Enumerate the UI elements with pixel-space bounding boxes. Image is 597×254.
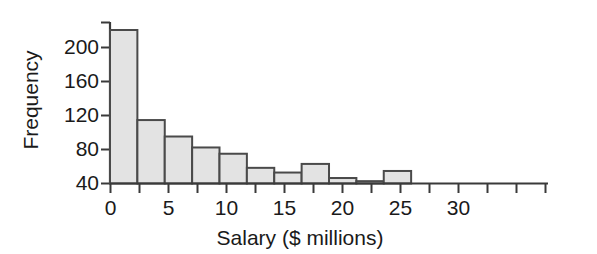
histogram-figure: Frequency 40 80 120 160 200: [0, 0, 597, 254]
x-tick-label-20: 20: [331, 196, 354, 219]
bar-8-10: [220, 154, 247, 184]
x-axis-title: Salary ($ millions): [217, 226, 384, 249]
y-tick-label-160: 160: [64, 69, 99, 92]
x-tick-marks: [111, 184, 546, 194]
bar-12-14: [274, 173, 301, 184]
x-tick-label-25: 25: [389, 196, 412, 219]
y-axis-title: Frequency: [19, 50, 42, 150]
bar-4-6: [165, 137, 192, 184]
bar-2-4: [137, 120, 164, 183]
histogram-bars: [110, 30, 411, 184]
y-tick-marks: [101, 23, 110, 184]
x-tick-label-15: 15: [273, 196, 296, 219]
x-tick-label-0: 0: [105, 196, 117, 219]
y-tick-label-120: 120: [64, 103, 99, 126]
bar-10-12: [247, 168, 274, 184]
x-tick-label-5: 5: [163, 196, 175, 219]
y-tick-label-40: 40: [76, 171, 99, 194]
y-tick-label-200: 200: [64, 35, 99, 58]
bar-20-22: [384, 171, 411, 184]
histogram-svg: Frequency 40 80 120 160 200: [0, 0, 597, 254]
x-tick-label-30: 30: [447, 196, 470, 219]
bar-0-2: [110, 30, 137, 184]
bar-14-16: [302, 164, 329, 184]
x-tick-label-10: 10: [215, 196, 238, 219]
y-tick-label-80: 80: [76, 137, 99, 160]
bar-6-8: [192, 147, 219, 183]
